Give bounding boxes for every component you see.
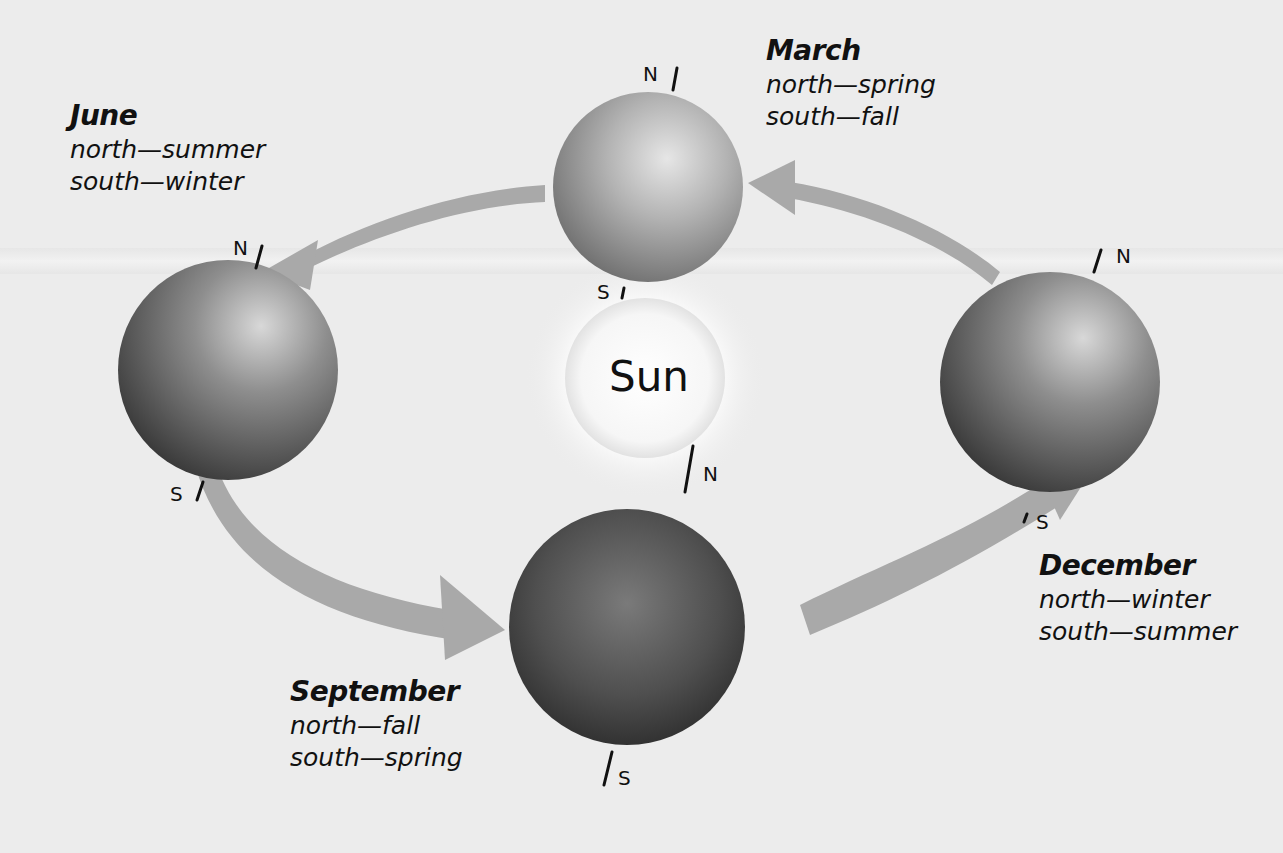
pole-n-june: N: [233, 236, 248, 260]
pole-n-december: N: [1116, 244, 1131, 268]
south-season: south—winter: [70, 166, 265, 198]
seasons-diagram: Sun June north—summer south—winter March…: [0, 0, 1283, 853]
earth-september: [509, 509, 745, 745]
north-season: north—summer: [70, 134, 265, 166]
south-season: south—spring: [290, 742, 463, 774]
south-season: south—fall: [766, 101, 936, 133]
earth-march: [553, 92, 743, 282]
month-title: September: [290, 674, 463, 710]
pole-s-march: S: [597, 280, 610, 304]
south-season: south—summer: [1039, 616, 1237, 648]
month-title: June: [70, 98, 265, 134]
pole-n-march: N: [643, 62, 658, 86]
month-title: December: [1039, 548, 1237, 584]
earth-june: [118, 260, 338, 480]
pole-s-june: S: [170, 482, 183, 506]
north-season: north—spring: [766, 69, 936, 101]
month-title: March: [766, 33, 936, 69]
sun-label: Sun: [609, 352, 689, 401]
north-season: north—winter: [1039, 584, 1237, 616]
label-september: September north—fall south—spring: [290, 674, 463, 774]
pole-n-september: N: [703, 462, 718, 486]
pole-s-september: S: [618, 766, 631, 790]
pole-s-december: S: [1036, 510, 1049, 534]
label-december: December north—winter south—summer: [1039, 548, 1237, 648]
label-march: March north—spring south—fall: [766, 33, 936, 133]
earth-december: [940, 272, 1160, 492]
label-june: June north—summer south—winter: [70, 98, 265, 198]
north-season: north—fall: [290, 710, 463, 742]
